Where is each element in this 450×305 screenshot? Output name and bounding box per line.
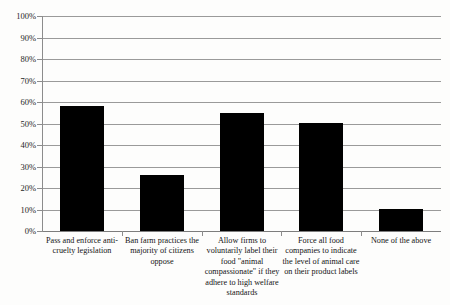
y-axis-tick-label: 80% [0,54,36,64]
y-axis-tick-label: 50% [0,119,36,129]
category-label: None of the above [361,236,441,246]
category-label: Allow firms to voluntarily label their f… [202,236,282,298]
bar-chart: 0%10%20%30%40%50%60%70%80%90%100% Pass a… [0,0,450,305]
category-label: Force all food companies to indicate the… [281,236,361,278]
y-axis-tick-label: 90% [0,33,36,43]
y-axis-tick-label: 40% [0,140,36,150]
y-axis-tick-label: 30% [0,162,36,172]
bar [220,113,264,231]
x-axis-category-labels: Pass and enforce anti-cruelty legislatio… [42,236,441,302]
bar [379,209,423,231]
y-axis-tick-label: 60% [0,97,36,107]
y-axis-tick-label: 20% [0,183,36,193]
y-axis-tick [37,231,43,232]
y-axis-tick-label: 0% [0,226,36,236]
bar [140,175,184,231]
category-label: Ban farm practices the majority of citiz… [122,236,202,267]
category-label: Pass and enforce anti-cruelty legislatio… [42,236,122,257]
gridline [42,231,441,232]
bar [299,123,343,231]
y-axis-tick-label: 70% [0,76,36,86]
y-axis-tick-label: 10% [0,205,36,215]
bar [60,106,104,231]
y-axis-tick-label: 100% [0,11,36,21]
plot-area [42,16,441,231]
